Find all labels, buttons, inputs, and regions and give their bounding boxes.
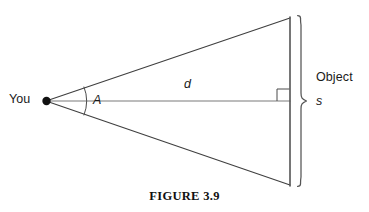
angular-size-diagram — [0, 0, 369, 212]
figure-caption: FIGURE 3.9 — [0, 189, 369, 204]
observer-label: You — [9, 93, 30, 106]
angle-label: A — [93, 94, 101, 107]
observer-point — [42, 97, 50, 105]
object-label: Object — [316, 71, 353, 84]
distance-label: d — [184, 78, 191, 91]
figure-container: You A d Object s FIGURE 3.9 — [0, 0, 369, 212]
diagram-background — [0, 0, 369, 212]
size-label: s — [316, 95, 322, 108]
